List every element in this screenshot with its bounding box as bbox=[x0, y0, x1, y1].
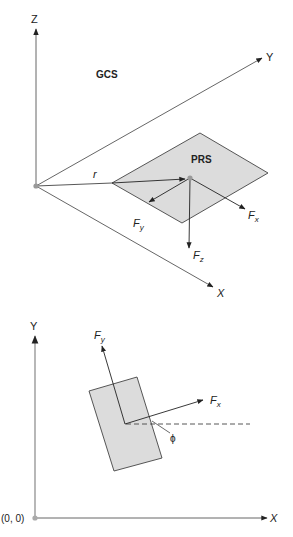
force-fz-label: Fz bbox=[193, 249, 204, 264]
plane-origin-dot bbox=[32, 515, 37, 520]
top-diagram: Z Y X GCS PRS r Fx Fz Fy bbox=[31, 13, 274, 299]
plane-x-label: X bbox=[269, 512, 278, 524]
gcs-z-label: Z bbox=[31, 13, 38, 25]
bottom-diagram: Y X (0, 0) Fy Fx ϕ bbox=[1, 320, 278, 524]
plane-force-fy-label: Fy bbox=[94, 329, 106, 344]
angle-phi-label: ϕ bbox=[170, 433, 176, 444]
gcs-label: GCS bbox=[96, 69, 118, 80]
coordinate-systems-diagram: Z Y X GCS PRS r Fx Fz Fy Y X bbox=[0, 0, 293, 537]
position-vector-r-base bbox=[36, 183, 112, 186]
position-vector-label: r bbox=[93, 168, 98, 180]
prs-center-dot bbox=[187, 175, 192, 180]
plane-y-label: Y bbox=[30, 320, 38, 332]
angle-leader-line bbox=[152, 421, 170, 433]
prs-label: PRS bbox=[191, 154, 212, 165]
gcs-y-label: Y bbox=[266, 51, 274, 63]
gcs-x-label: X bbox=[216, 287, 225, 299]
force-fx-label: Fx bbox=[248, 209, 260, 224]
gcs-origin-dot bbox=[33, 183, 38, 188]
force-fy-label: Fy bbox=[133, 217, 145, 232]
plane-origin-label: (0, 0) bbox=[1, 513, 24, 524]
plane-force-fx-label: Fx bbox=[210, 394, 222, 409]
